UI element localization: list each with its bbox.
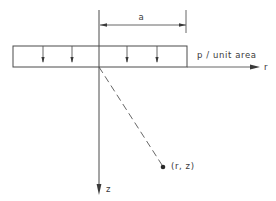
load-label: p / unit area xyxy=(197,50,257,60)
dimension-arrowhead-right xyxy=(179,23,186,27)
r-axis-label: r xyxy=(264,62,268,72)
distributed-load: p / unit area xyxy=(13,46,257,67)
field-point: (r, z) xyxy=(99,67,195,171)
radius-label: a xyxy=(139,12,145,22)
radial-dashed-line xyxy=(99,67,162,165)
z-axis-label: z xyxy=(106,184,111,194)
point-marker xyxy=(161,165,166,170)
r-axis-arrowhead xyxy=(250,65,260,70)
r-axis: r xyxy=(187,62,268,72)
point-label: (r, z) xyxy=(171,161,195,171)
load-block xyxy=(13,46,187,67)
load-arrowhead-2 xyxy=(70,57,73,63)
load-arrowhead-1 xyxy=(41,57,44,63)
z-axis: z xyxy=(97,10,111,195)
load-arrowhead-3 xyxy=(125,57,128,63)
dimension-arrowhead-left xyxy=(100,23,107,27)
radius-dimension: a xyxy=(100,10,186,33)
load-arrowhead-4 xyxy=(155,57,158,63)
z-axis-arrowhead xyxy=(97,184,102,195)
half-space-loading-diagram: a p / unit area r z (r, z) xyxy=(0,0,276,201)
